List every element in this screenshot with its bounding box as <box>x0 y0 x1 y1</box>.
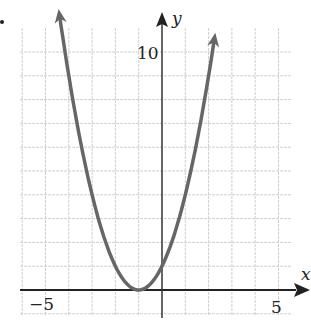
x-axis-label: x <box>301 264 311 284</box>
problem-marker-dot <box>0 20 4 24</box>
x-tick-label-5: 5 <box>271 297 282 317</box>
y-axis-label: y <box>171 8 182 28</box>
x-tick-label-neg5: −5 <box>29 294 54 314</box>
y-tick-label-10: 10 <box>137 43 159 63</box>
chart-canvas: −5 5 10 x y <box>0 0 311 328</box>
grid <box>20 28 292 316</box>
x-axis-arrow-icon <box>294 283 310 297</box>
